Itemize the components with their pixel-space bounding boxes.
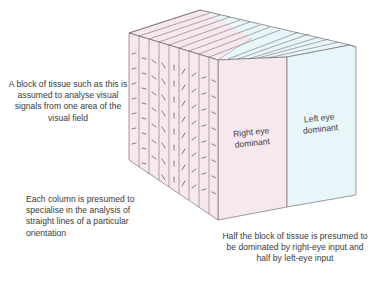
cortex-block-diagram: Right eye dominant Left eye dominant A b…: [0, 0, 371, 295]
column-face: [129, 33, 218, 220]
block-caption: A block of tissue such as this is assume…: [8, 79, 128, 124]
columns-caption: Each column is presumed to specialise in…: [26, 194, 156, 239]
halves-caption: Half the block of tissue is presumed to …: [220, 231, 370, 265]
